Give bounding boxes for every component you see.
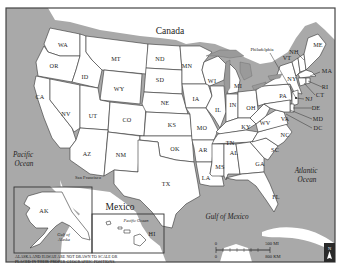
label-il: IL (215, 106, 221, 113)
label-nm: NM (116, 151, 127, 158)
label-in: IN (230, 101, 237, 108)
label-wi: WI (208, 77, 216, 84)
state-in[interactable] (226, 94, 238, 122)
label-atlantic-ocean: Atlantic Ocean (294, 167, 320, 184)
label-az: AZ (83, 150, 92, 157)
scale-top-max: 500 MI (265, 241, 279, 246)
label-ct: CT (316, 91, 324, 98)
label-ms: MS (215, 163, 225, 170)
label-ak: AK (39, 207, 49, 214)
label-dc: DC (314, 124, 323, 131)
label-vt: VT (283, 54, 292, 61)
label-nv: NV (61, 110, 71, 117)
label-wv: WV (260, 119, 271, 126)
label-mo: MO (197, 124, 208, 131)
label-mn: MN (182, 62, 193, 69)
label-hi: HI (149, 230, 156, 237)
label-ks: KS (168, 121, 177, 128)
label-gulf-of-mexico: Gulf of Mexico (205, 213, 249, 221)
label-mt: MT (111, 55, 121, 62)
label-fl: FL (272, 193, 280, 200)
label-va: VA (281, 115, 290, 122)
label-wa: WA (58, 41, 68, 48)
label-ne: NE (161, 99, 170, 106)
label-canada: Canada (156, 26, 185, 36)
label-co: CO (123, 116, 132, 123)
label-ma: MA (322, 67, 333, 74)
label-al: AL (230, 149, 239, 156)
label-mexico: Mexico (105, 202, 134, 212)
label-oh: OH (246, 104, 256, 111)
label-ca: CA (36, 93, 45, 100)
label-ga: GA (255, 160, 265, 167)
label-nd: ND (155, 55, 165, 62)
label-id: ID (82, 73, 89, 80)
label-san-francisco: San Francisco (75, 175, 102, 180)
label-la: LA (202, 174, 211, 181)
label-tn: TN (226, 139, 235, 146)
label-nh: NH (289, 48, 299, 55)
inset-disclaimer: ALASKA AND HAWAII ARE NOT DRAWN TO SCALE… (15, 255, 119, 264)
label-tx: TX (162, 180, 171, 187)
label-or: OR (50, 62, 60, 69)
label-ky: KY (241, 123, 251, 130)
north-arrow-icon: N (324, 243, 335, 262)
label-pacific-ocean: Pacific Ocean (12, 151, 35, 168)
label-sd: SD (156, 76, 165, 83)
label-me: ME (313, 41, 323, 48)
state-hi-island-3[interactable] (124, 230, 130, 233)
label-ar: AR (199, 146, 209, 153)
label-wy: WY (114, 85, 125, 92)
label-ny: NY (287, 75, 297, 82)
label-ut: UT (89, 112, 98, 119)
label-md: MD (313, 115, 324, 122)
label-ia: IA (193, 95, 200, 102)
label-sc: SC (271, 146, 279, 153)
label-philadelphia: Philadelphia (251, 47, 274, 52)
state-hi-island-2[interactable] (118, 227, 122, 229)
label-ri: RI (322, 83, 329, 90)
label-pacific-ocean-inset: Pacific Ocean (123, 218, 150, 223)
label-de: DE (312, 104, 321, 111)
state-hi-island-1[interactable] (106, 221, 111, 225)
label-ok: OK (170, 145, 180, 152)
state-ms[interactable] (210, 144, 224, 176)
label-nc: NC (281, 131, 290, 138)
scale-bottom-max: 800 KM (265, 254, 280, 259)
label-nj: NJ (305, 95, 313, 102)
us-states-map: Canada Mexico Pacific Ocean Atlantic Oce… (0, 0, 342, 274)
label-pa: PA (279, 92, 287, 99)
label-mi: MI (234, 82, 242, 89)
label-gulf-of-alaska: Gulf of Alaska (57, 232, 71, 242)
